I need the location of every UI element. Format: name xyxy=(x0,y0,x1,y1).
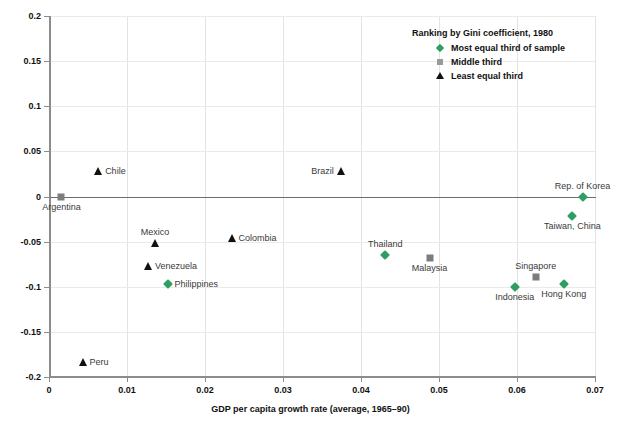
y-tick-mark xyxy=(44,151,50,152)
gridline-horizontal xyxy=(49,242,595,243)
data-point-label: Taiwan, China xyxy=(544,221,601,231)
x-tick-label: 0.06 xyxy=(508,385,526,395)
data-point-marker[interactable] xyxy=(58,194,65,201)
gridline-horizontal xyxy=(49,16,595,17)
x-tick-mark xyxy=(595,377,596,382)
x-tick-mark xyxy=(517,377,518,382)
y-tick-mark xyxy=(44,61,50,62)
y-tick-mark xyxy=(44,242,50,243)
legend-title: Ranking by Gini coefficient, 1980 xyxy=(412,28,565,38)
triangle-marker-icon xyxy=(434,70,446,81)
x-axis-title: GDP per capita growth rate (average, 196… xyxy=(0,404,621,414)
y-tick-label: -0.2 xyxy=(0,372,41,382)
y-tick-mark xyxy=(44,16,50,17)
data-point-label: Rep. of Korea xyxy=(555,181,611,191)
data-point-marker[interactable] xyxy=(337,167,345,175)
x-tick-label: 0.01 xyxy=(118,385,136,395)
x-tick-mark xyxy=(127,377,128,382)
data-point-label: Colombia xyxy=(239,233,277,243)
legend-item-label: Most equal third of sample xyxy=(451,43,565,53)
clipped-title-text xyxy=(60,0,63,4)
x-tick-label: 0.04 xyxy=(352,385,370,395)
square-marker-icon xyxy=(434,56,446,67)
y-tick-label: 0.05 xyxy=(0,146,41,156)
data-point-label: Venezuela xyxy=(155,261,197,271)
data-point-label: Thailand xyxy=(368,239,403,249)
x-tick-label: 0 xyxy=(46,385,51,395)
y-tick-mark xyxy=(44,197,50,198)
x-tick-label: 0.03 xyxy=(274,385,292,395)
x-tick-mark xyxy=(205,377,206,382)
x-tick-label: 0.05 xyxy=(430,385,448,395)
legend-item-label: Least equal third xyxy=(451,71,523,81)
data-point-marker[interactable] xyxy=(228,234,236,242)
y-tick-label: -0.15 xyxy=(0,327,41,337)
x-tick-label: 0.02 xyxy=(196,385,214,395)
legend-entries: Most equal third of sampleMiddle thirdLe… xyxy=(412,42,565,81)
data-point-marker[interactable] xyxy=(532,273,539,280)
legend-item-label: Middle third xyxy=(451,57,502,67)
legend-item[interactable]: Least equal third xyxy=(434,70,565,81)
y-tick-label: 0.15 xyxy=(0,56,41,66)
x-tick-label: 0.07 xyxy=(586,385,604,395)
y-tick-label: 0.1 xyxy=(0,101,41,111)
scatter-chart: 0.20.150.10.050-0.05-0.1-0.15-0.2 00.010… xyxy=(0,0,621,424)
y-tick-label: -0.1 xyxy=(0,282,41,292)
data-point-label: Malaysia xyxy=(412,263,448,273)
data-point-label: Singapore xyxy=(515,261,556,271)
legend-item[interactable]: Middle third xyxy=(434,56,565,67)
diamond-marker-icon xyxy=(434,42,446,53)
legend-item[interactable]: Most equal third of sample xyxy=(434,42,565,53)
x-tick-mark xyxy=(361,377,362,382)
data-point-label: Hong Kong xyxy=(541,289,586,299)
y-tick-label: -0.05 xyxy=(0,237,41,247)
data-point-marker[interactable] xyxy=(144,262,152,270)
data-point-label: Indonesia xyxy=(495,292,534,302)
y-tick-mark xyxy=(44,332,50,333)
data-point-marker[interactable] xyxy=(94,167,102,175)
x-tick-mark xyxy=(283,377,284,382)
gridline-horizontal xyxy=(49,332,595,333)
data-point-label: Mexico xyxy=(141,227,170,237)
data-point-label: Brazil xyxy=(311,166,334,176)
y-tick-label: 0 xyxy=(0,192,41,202)
legend: Ranking by Gini coefficient, 1980 Most e… xyxy=(412,28,565,84)
clipped-title-strip xyxy=(0,0,621,6)
data-point-label: Philippines xyxy=(175,279,219,289)
y-tick-label: 0.2 xyxy=(0,11,41,21)
gridline-horizontal xyxy=(49,151,595,152)
zero-reference-line xyxy=(49,197,596,198)
x-axis-line xyxy=(49,376,596,378)
data-point-marker[interactable] xyxy=(79,358,87,366)
data-point-label: Peru xyxy=(90,357,109,367)
x-tick-mark xyxy=(49,377,50,382)
gridline-horizontal xyxy=(49,106,595,107)
data-point-label: Chile xyxy=(105,166,126,176)
data-point-marker[interactable] xyxy=(426,254,433,261)
x-tick-mark xyxy=(439,377,440,382)
data-point-marker[interactable] xyxy=(151,239,159,247)
y-tick-mark xyxy=(44,106,50,107)
data-point-label: Argentina xyxy=(42,202,81,212)
y-tick-mark xyxy=(44,287,50,288)
